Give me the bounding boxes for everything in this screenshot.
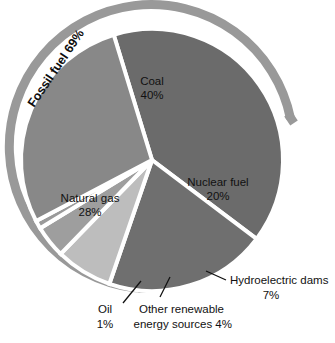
- label-hydroelectric-name: Hydroelectric dams: [230, 274, 329, 286]
- label-hydroelectric-value: 7%: [263, 289, 280, 301]
- label-oil-name: Oil: [98, 303, 112, 315]
- label-coal-name: Coal: [140, 75, 164, 87]
- label-nuclear-fuel-name: Nuclear fuel: [187, 176, 248, 188]
- pie-chart-figure: Coal 40% Nuclear fuel 20% Natural gas 28…: [0, 0, 335, 343]
- fossil-fuel-bracket-end-cap: [288, 114, 294, 123]
- label-nuclear-fuel-value: 20%: [206, 190, 229, 202]
- pie-chart-svg: Coal 40% Nuclear fuel 20% Natural gas 28…: [0, 0, 335, 343]
- label-coal-value: 40%: [140, 89, 163, 101]
- label-other-renewable-line2: energy sources 4%: [134, 318, 232, 330]
- label-natural-gas-name: Natural gas: [61, 192, 120, 204]
- label-oil-value: 1%: [97, 318, 114, 330]
- label-natural-gas-value: 28%: [78, 206, 101, 218]
- label-other-renewable-line1: Other renewable: [139, 303, 224, 315]
